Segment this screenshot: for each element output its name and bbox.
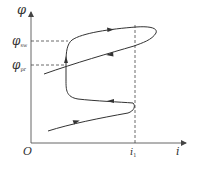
phi-pr-label: φpr [12, 59, 26, 72]
upper-rising-branch [72, 27, 156, 40]
origin-label: O [23, 146, 32, 157]
y-axis-label: φ [17, 3, 26, 16]
upper-return-branch [44, 33, 156, 74]
lower-rising-branch [48, 103, 134, 131]
arrow-vertical-up-icon [64, 56, 68, 63]
i1-label: i1 [130, 147, 136, 158]
arrow-middle-branch-icon [107, 99, 114, 103]
x-axis-label: i [176, 146, 180, 157]
arrow-upper-branch-icon [107, 28, 114, 33]
phi-sw-label: φsw [12, 35, 27, 48]
